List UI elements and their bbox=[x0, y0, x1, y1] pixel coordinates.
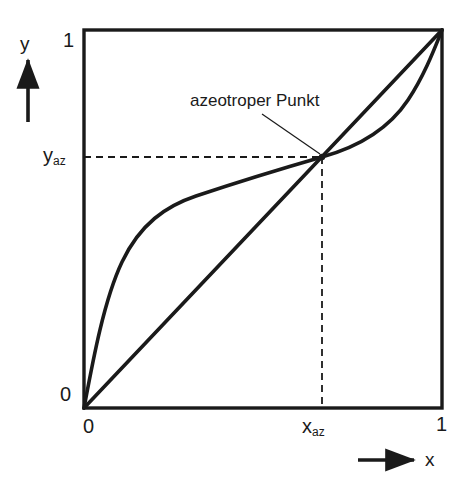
x-tick-azeotrope-base: x bbox=[302, 415, 312, 437]
y-tick-azeotrope-base: y bbox=[43, 144, 53, 166]
y-axis-label: y bbox=[20, 34, 30, 53]
azeotrope-equilibrium-figure: y x 1 0 yaz 0 xaz 1 azeotroper Punkt bbox=[0, 0, 465, 486]
annotation-leader-line bbox=[262, 114, 320, 154]
diagonal-line bbox=[84, 30, 442, 408]
y-tick-origin: 0 bbox=[60, 384, 71, 404]
azeotropic-point-marker bbox=[319, 154, 325, 160]
x-tick-azeotrope: xaz bbox=[302, 416, 325, 436]
plot-canvas bbox=[0, 0, 465, 486]
y-tick-azeotrope-subscript: az bbox=[53, 154, 66, 168]
y-tick-max: 1 bbox=[63, 30, 74, 50]
azeotrope-annotation-label: azeotroper Punkt bbox=[190, 92, 319, 109]
x-tick-origin: 0 bbox=[83, 416, 94, 436]
x-axis-label: x bbox=[425, 450, 435, 469]
x-tick-max: 1 bbox=[436, 414, 447, 434]
y-tick-azeotrope: yaz bbox=[43, 145, 66, 165]
x-tick-azeotrope-subscript: az bbox=[312, 425, 325, 439]
